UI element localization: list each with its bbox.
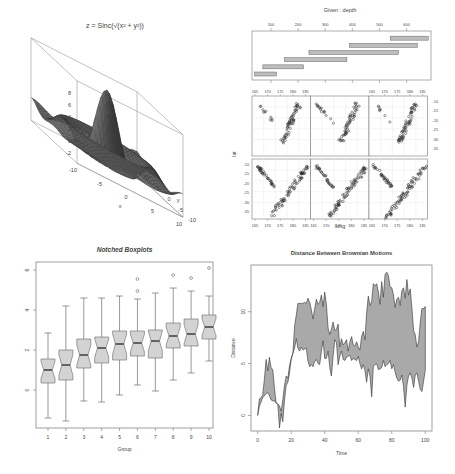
coplot-subpanel — [311, 96, 370, 156]
y-tick-label: -5 — [178, 207, 183, 213]
outlier-point — [190, 277, 193, 280]
coplot-subpanel — [369, 96, 428, 156]
y-tick-label: -10 — [188, 217, 196, 223]
z-tick-label: 4 — [68, 114, 71, 120]
y-tick-label: 5 — [240, 362, 246, 365]
y-tick-label: -35 — [244, 210, 250, 214]
y-tick-label: 10 — [143, 174, 149, 180]
given-interval-bar — [255, 72, 277, 76]
coplot: Given : depth100200300400500600latlong16… — [230, 0, 455, 230]
x-tick-label: 180 — [407, 224, 413, 228]
given-tick-label: 500 — [376, 22, 383, 27]
y-tick-label: 0 — [240, 414, 246, 417]
box-group — [130, 278, 144, 385]
given-interval-bar — [350, 43, 418, 47]
x-tick-label: 100 — [421, 437, 430, 443]
z-tick-label: 8 — [68, 90, 71, 96]
brownian-panel: Distance Between Brownian Motions0204060… — [230, 235, 455, 474]
x-tick-label: 175 — [394, 224, 400, 228]
x-tick-label: 170 — [381, 90, 387, 94]
z-axis-label: z — [60, 117, 63, 123]
y-tick-label: -15 — [433, 109, 439, 113]
y-tick-label: 4 — [24, 308, 30, 311]
x-tick-label: 175 — [394, 90, 400, 94]
y-tick-label: -10 — [244, 163, 250, 167]
x-tick-label: 185 — [302, 90, 308, 94]
outlier-point — [136, 278, 139, 281]
z-tick-label: 6 — [68, 102, 71, 108]
y-tick-label: -30 — [433, 138, 439, 142]
x-tick-label: 1 — [47, 434, 50, 440]
surface-cell — [179, 193, 183, 195]
notched-box — [148, 330, 162, 358]
x-tick-label: 4 — [100, 434, 103, 440]
y-tick-label: -25 — [244, 191, 250, 195]
notched-box — [95, 337, 109, 363]
box-group — [166, 274, 180, 380]
x-tick-label: 165 — [369, 224, 375, 228]
outlier-point — [136, 290, 139, 293]
boxplot: Notched Boxplots024612345678910Group — [0, 235, 230, 474]
coplot-subpanel — [311, 159, 370, 219]
y-axis-label: Distance — [230, 338, 236, 358]
x-tick-label: 165 — [369, 90, 375, 94]
given-tick-label: 100 — [268, 22, 275, 27]
given-interval-bar — [390, 36, 428, 40]
x-tick-label: 10 — [206, 434, 212, 440]
given-tick-label: 600 — [403, 22, 410, 27]
coplot-subpanel — [252, 96, 311, 156]
x-tick-label: 165 — [310, 224, 316, 228]
y-tick-label: 0 — [167, 196, 170, 202]
y-tick-label: 2 — [24, 348, 30, 351]
x-tick-label: 170 — [381, 224, 387, 228]
x-tick-label: 185 — [419, 90, 425, 94]
x-tick-label: 5 — [118, 434, 121, 440]
x-tick-label: 6 — [136, 434, 139, 440]
x-tick-label: 185 — [302, 224, 308, 228]
y-tick-label: -20 — [433, 119, 439, 123]
y-tick-label: -15 — [244, 172, 250, 176]
boxplot-panel: Notched Boxplots024612345678910Group — [0, 235, 230, 474]
y-tick-label: 6 — [24, 268, 30, 271]
x-tick-label: 165 — [252, 90, 258, 94]
box-group — [59, 306, 73, 421]
x-tick-label: -5 — [97, 181, 102, 187]
notched-box — [184, 319, 198, 346]
x-tick-label: 180 — [348, 224, 354, 228]
x-tick-label: 8 — [172, 434, 175, 440]
box-group — [41, 333, 55, 418]
chart-title: z = Sinc(√(x² + y²)) — [86, 22, 144, 30]
y-tick-label: -30 — [244, 201, 250, 205]
x-tick-label: 20 — [288, 437, 294, 443]
x-tick-label: 170 — [264, 224, 270, 228]
y-tick-label: -20 — [244, 182, 250, 186]
y-tick-label: -35 — [433, 147, 439, 151]
surface-plot: z = Sinc(√(x² + y²))-10-50510-10-50510-2… — [0, 0, 230, 230]
y-tick-label: 10 — [240, 309, 246, 315]
x-tick-label: 3 — [82, 434, 85, 440]
x-tick-label: 0 — [124, 194, 127, 200]
x-axis-label: x — [119, 203, 122, 209]
y-tick-label: 0 — [24, 388, 30, 391]
given-title: Given : depth — [324, 7, 357, 13]
box-group — [77, 298, 91, 401]
y-tick-label: -10 — [433, 100, 439, 104]
subpanel-frame — [369, 159, 428, 219]
y-tick-label: 5 — [156, 185, 159, 191]
x-tick-label: 175 — [277, 90, 283, 94]
given-tick-label: 300 — [322, 22, 329, 27]
x-tick-label: -10 — [69, 167, 77, 173]
box-group — [184, 277, 198, 373]
brownian-area-plot: Distance Between Brownian Motions0204060… — [230, 235, 455, 474]
box-group — [148, 293, 162, 391]
y-tick-label: -25 — [433, 128, 439, 132]
box-group — [95, 298, 109, 402]
x-tick-label: 9 — [190, 434, 193, 440]
z-tick-label: -2 — [66, 150, 71, 156]
x-tick-label: 180 — [407, 90, 413, 94]
y-axis-label: y — [177, 197, 180, 203]
x-tick-label: 180 — [290, 90, 296, 94]
x-tick-label: 7 — [154, 434, 157, 440]
coplot-subpanel — [252, 159, 311, 219]
x-tick-label: 185 — [361, 224, 367, 228]
